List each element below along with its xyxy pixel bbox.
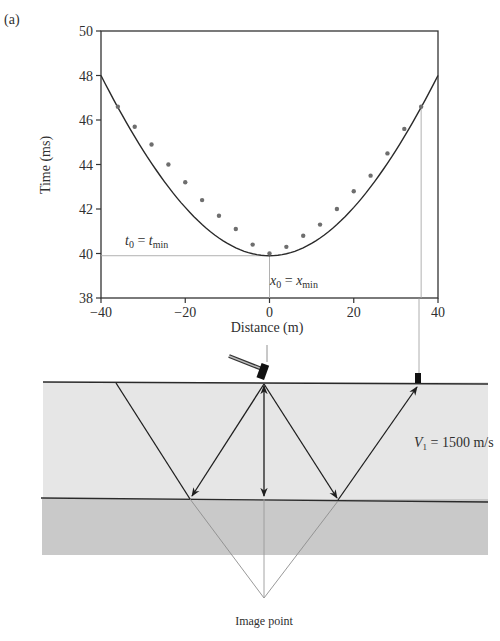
layer-diagram: V1 = 1500 m/s Image point xyxy=(41,356,494,628)
data-point xyxy=(402,127,406,131)
data-point xyxy=(149,142,153,146)
y-axis-label: Time (ms) xyxy=(38,136,54,195)
data-point xyxy=(284,245,288,249)
y-tick-label: 44 xyxy=(79,158,93,173)
figure: (a) 38404244464850 −40−2002040 Time (ms)… xyxy=(0,0,500,641)
y-tick-label: 46 xyxy=(79,113,93,128)
y-tick-label: 42 xyxy=(79,202,93,217)
data-point xyxy=(318,222,322,226)
geophone-icon xyxy=(415,373,421,383)
data-points xyxy=(116,104,424,255)
data-point xyxy=(335,207,339,211)
x-axis-label: Distance (m) xyxy=(231,320,304,336)
data-point xyxy=(217,213,221,217)
hammer-icon xyxy=(229,356,269,380)
data-point xyxy=(116,104,120,108)
data-point xyxy=(352,189,356,193)
x0-xmin-annotation: x0 = xmin xyxy=(269,273,318,290)
y-tick-label: 48 xyxy=(79,69,93,84)
image-point-label: Image point xyxy=(235,614,293,628)
lower-layer xyxy=(42,499,488,555)
y-tick-label: 50 xyxy=(79,24,93,39)
x-tick-label: 0 xyxy=(266,305,273,320)
panel-label: (a) xyxy=(4,12,20,28)
x-axis: −40−2002040 xyxy=(90,298,445,320)
y-tick-label: 38 xyxy=(79,291,93,306)
x-tick-label: 20 xyxy=(347,305,361,320)
data-point xyxy=(250,242,254,246)
data-point xyxy=(267,251,271,255)
data-point xyxy=(200,198,204,202)
data-point xyxy=(385,151,389,155)
x-tick-label: −20 xyxy=(174,305,196,320)
data-point xyxy=(419,104,423,108)
data-point xyxy=(234,227,238,231)
x-tick-label: 40 xyxy=(431,305,445,320)
data-point xyxy=(133,124,137,128)
data-point xyxy=(368,173,372,177)
hyperbola-curve xyxy=(101,76,438,256)
traveltime-chart: 38404244464850 −40−2002040 Time (ms) Dis… xyxy=(38,24,445,336)
y-axis: 38404244464850 xyxy=(79,24,101,306)
guide-lines xyxy=(101,107,421,298)
data-point xyxy=(183,180,187,184)
data-point xyxy=(301,234,305,238)
t0-tmin-annotation: t0 = tmin xyxy=(125,233,168,250)
x-tick-label: −40 xyxy=(90,305,112,320)
data-point xyxy=(166,162,170,166)
y-tick-label: 40 xyxy=(79,247,93,262)
